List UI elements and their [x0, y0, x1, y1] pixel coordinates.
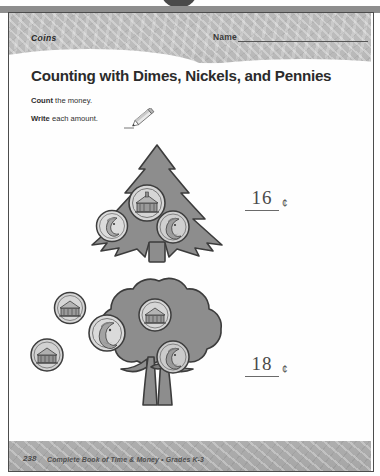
footer-text: Complete Book of Time & Money • Grades K…: [47, 456, 204, 463]
worksheet-page: Coins Name Counting with Dimes, Nickels,…: [0, 0, 380, 476]
instruction-write-keyword: Write: [31, 114, 50, 123]
answer-1[interactable]: 16 ¢: [245, 187, 288, 211]
pencil-icon: [123, 108, 159, 130]
coin-nickel: [87, 313, 127, 353]
answer-2[interactable]: 18 ¢: [245, 353, 288, 377]
problem-row-1: [9, 139, 371, 269]
coin-nickel: [137, 297, 173, 333]
answer-1-line[interactable]: 16: [245, 187, 279, 211]
instruction-count-rest: the money.: [53, 96, 92, 105]
instruction-write: Write each amount.: [31, 114, 98, 123]
coin-nickel: [53, 291, 87, 325]
instruction-count: Count the money.: [31, 96, 92, 105]
coin-nickel: [29, 337, 65, 373]
name-field[interactable]: Name: [213, 32, 368, 42]
answer-2-line[interactable]: 18: [245, 353, 279, 377]
name-input-rule[interactable]: [238, 32, 368, 42]
answer-2-cent-symbol: ¢: [282, 364, 288, 377]
coin-dime: [95, 209, 129, 243]
answer-2-value: 18: [252, 353, 273, 374]
section-label: Coins: [31, 33, 57, 43]
page-number: 238: [23, 454, 36, 463]
name-label: Name: [213, 32, 237, 42]
page-title: Counting with Dimes, Nickels, and Pennie…: [31, 67, 361, 84]
problem-row-2: [9, 275, 371, 415]
answer-1-cent-symbol: ¢: [282, 198, 288, 211]
coin-penny: [155, 339, 191, 375]
answer-1-value: 16: [252, 187, 273, 208]
instruction-write-rest: each amount.: [50, 114, 98, 123]
instruction-count-keyword: Count: [31, 96, 53, 105]
coin-penny: [155, 209, 191, 245]
worksheet-sheet: Coins Name Counting with Dimes, Nickels,…: [8, 12, 374, 472]
